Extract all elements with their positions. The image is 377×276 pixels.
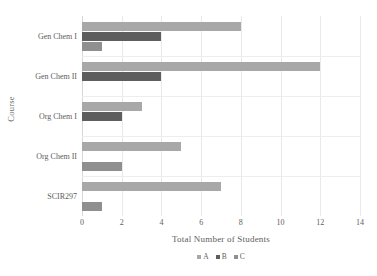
x-axis-tick-label: 12 — [316, 218, 324, 227]
bar[interactable] — [82, 22, 241, 31]
bar-slot — [82, 72, 360, 81]
bar-group — [82, 56, 360, 96]
bar-slot — [82, 102, 360, 111]
x-axis-tick-label: 4 — [159, 218, 163, 227]
y-axis-title-text: Course — [6, 96, 16, 121]
bar-group — [82, 176, 360, 216]
x-axis-tick-label: 10 — [277, 218, 285, 227]
legend-label: C — [240, 252, 245, 261]
bar-slot — [82, 42, 360, 51]
y-axis-tick-label: Gen Chem II — [18, 56, 82, 96]
bar-group — [82, 136, 360, 176]
bar[interactable] — [82, 162, 122, 171]
bar[interactable] — [82, 72, 161, 81]
x-axis-tick-label: 6 — [199, 218, 203, 227]
y-axis-tick-label: Org Chem I — [18, 96, 82, 136]
x-axis-title: Total Number of Students — [82, 234, 360, 244]
legend-swatch-icon — [216, 255, 220, 259]
x-axis-tick-label: 0 — [80, 218, 84, 227]
plot-area — [82, 16, 360, 216]
bar-slot — [82, 32, 360, 41]
x-axis-tick-label: 8 — [239, 218, 243, 227]
legend-label: B — [222, 252, 227, 261]
bar-slot — [82, 162, 360, 171]
legend-label: A — [203, 252, 208, 261]
legend-item[interactable]: C — [234, 252, 245, 261]
bar-slot — [82, 22, 360, 31]
y-axis-tick-label: Gen Chem I — [18, 16, 82, 56]
legend-item[interactable]: B — [216, 252, 227, 261]
x-axis-tick-label: 2 — [120, 218, 124, 227]
bar-slot — [82, 62, 360, 71]
bar[interactable] — [82, 202, 102, 211]
bar-slot — [82, 192, 360, 201]
bar[interactable] — [82, 32, 161, 41]
bar[interactable] — [82, 102, 142, 111]
legend: ABC — [82, 252, 360, 261]
bar-slot — [82, 152, 360, 161]
bar-group — [82, 96, 360, 136]
bar[interactable] — [82, 62, 320, 71]
bar-group — [82, 16, 360, 56]
bar-slot — [82, 112, 360, 121]
legend-item[interactable]: A — [197, 252, 208, 261]
bar[interactable] — [82, 42, 102, 51]
y-axis-tick-label: Org Chem II — [18, 136, 82, 176]
x-axis-title-text: Total Number of Students — [172, 234, 270, 244]
y-axis-tick-labels: Gen Chem IGen Chem IIOrg Chem IOrg Chem … — [18, 16, 82, 216]
bar-slot — [82, 82, 360, 91]
legend-swatch-icon — [234, 255, 238, 259]
bar[interactable] — [82, 142, 181, 151]
x-axis-tick-labels: 02468101214 — [82, 218, 360, 232]
y-axis-tick-label: SCIR297 — [18, 176, 82, 216]
bar-chart: Course Gen Chem IGen Chem IIOrg Chem IOr… — [0, 0, 377, 276]
bar[interactable] — [82, 112, 122, 121]
bar[interactable] — [82, 182, 221, 191]
legend-swatch-icon — [197, 255, 201, 259]
bar-slot — [82, 122, 360, 131]
bar-slot — [82, 182, 360, 191]
bar-groups — [82, 16, 360, 216]
bar-slot — [82, 142, 360, 151]
x-axis-tick-label: 14 — [356, 218, 364, 227]
gridline — [360, 16, 361, 216]
bar-slot — [82, 202, 360, 211]
